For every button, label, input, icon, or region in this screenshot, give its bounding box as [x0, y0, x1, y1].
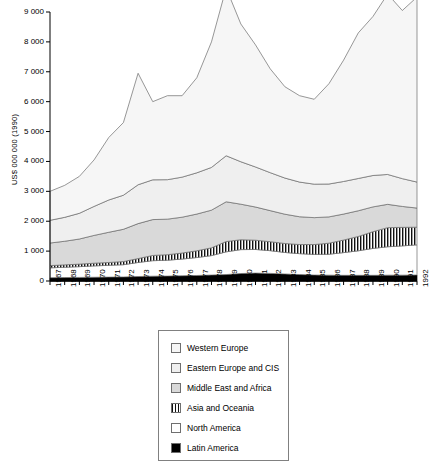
- stacked-series-layer: [50, 0, 417, 281]
- legend-item[interactable]: Western Europe: [171, 341, 248, 355]
- x-tick-label: 1972: [127, 269, 136, 287]
- grey-swatch: [171, 383, 181, 393]
- y-tick-label: 6 000: [24, 97, 44, 106]
- legend-item-label: Middle East and Africa: [187, 383, 272, 393]
- x-tick-label: 1970: [98, 269, 107, 287]
- x-tick-label: 1986: [333, 269, 342, 287]
- y-axis-label: US$ 000 000 (1990): [10, 113, 19, 184]
- x-tick-label: 1979: [230, 269, 239, 287]
- y-tick-label: 3 000: [24, 186, 44, 195]
- legend-item[interactable]: Middle East and Africa: [171, 381, 272, 395]
- hatched-swatch: [171, 403, 181, 413]
- y-tick-label: 7 000: [24, 67, 44, 76]
- y-tick-label: 2 000: [24, 216, 44, 225]
- x-tick-label: 1971: [113, 269, 122, 287]
- x-tick-label: 1968: [69, 269, 78, 287]
- legend-item[interactable]: North America: [171, 421, 241, 435]
- legend-item[interactable]: Eastern Europe and CIS: [171, 361, 279, 375]
- x-tick-label: 1989: [377, 269, 386, 287]
- white-swatch: [171, 423, 181, 433]
- x-tick-label: 1969: [83, 269, 92, 287]
- legend-item-label: Eastern Europe and CIS: [187, 363, 279, 373]
- y-tick-label: 0: [40, 276, 44, 285]
- x-tick-label: 1987: [348, 269, 357, 287]
- light-grey-swatch: [171, 343, 181, 353]
- y-tick-label: 4 000: [24, 156, 44, 165]
- x-tick-label: 1992: [421, 269, 430, 287]
- x-tick-label: 1985: [318, 269, 327, 287]
- x-tick-label: 1981: [260, 269, 269, 287]
- x-tick-label: 1974: [157, 269, 166, 287]
- x-tick-label: 1980: [245, 269, 254, 287]
- x-tick-label: 1990: [392, 269, 401, 287]
- legend-item-label: Asia and Oceania: [187, 403, 254, 413]
- x-tick-label: 1975: [171, 269, 180, 287]
- x-tick-label: 1976: [186, 269, 195, 287]
- x-tick-label: 1982: [274, 269, 283, 287]
- x-tick-label: 1983: [289, 269, 298, 287]
- y-tick-label: 9 000: [24, 7, 44, 16]
- legend-item[interactable]: Latin America: [171, 441, 239, 455]
- x-tick-label: 1973: [142, 269, 151, 287]
- x-tick-label: 1967: [54, 269, 63, 287]
- y-tick-label: 5 000: [24, 127, 44, 136]
- x-tick-label: 1991: [406, 269, 415, 287]
- x-tick-label: 1978: [215, 269, 224, 287]
- x-tick-label: 1984: [304, 269, 313, 287]
- y-tick-label: 1 000: [24, 246, 44, 255]
- y-tick-label: 8 000: [24, 37, 44, 46]
- legend-item-label: Latin America: [187, 443, 239, 453]
- legend-item-label: North America: [187, 423, 241, 433]
- light-grey-swatch: [171, 363, 181, 373]
- legend-item[interactable]: Asia and Oceania: [171, 401, 254, 415]
- chart-legend: Western EuropeEastern Europe and CISMidd…: [158, 330, 289, 461]
- x-tick-label: 1988: [362, 269, 371, 287]
- x-tick-label: 1977: [201, 269, 210, 287]
- black-swatch: [171, 443, 181, 453]
- legend-item-label: Western Europe: [187, 343, 248, 353]
